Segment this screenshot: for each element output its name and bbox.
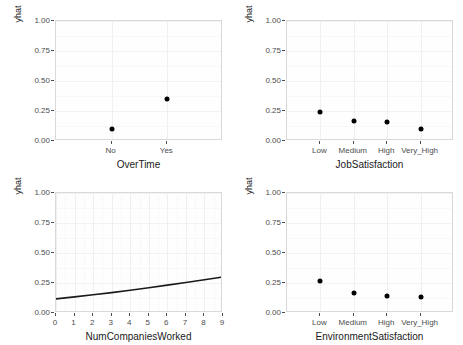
y-tick-label: 0.75 [34, 218, 50, 227]
gridline-horizontal-minor [287, 126, 452, 127]
x-tick-label: Yes [160, 146, 173, 155]
gridline-horizontal-major [56, 111, 221, 112]
x-tick-label: 2 [90, 318, 94, 327]
y-tick-mark [282, 110, 285, 111]
y-tick-label: 0.25 [34, 278, 50, 287]
y-tick-mark [282, 282, 285, 283]
x-axis-title: JobSatisfaction [336, 159, 404, 170]
y-tick-mark [282, 222, 285, 223]
x-tick-mark [203, 313, 204, 316]
x-tick-label: 9 [220, 318, 224, 327]
x-tick-label: 7 [183, 318, 187, 327]
y-tick-mark [51, 50, 54, 51]
y-tick-labels: 0.000.250.500.751.00 [26, 172, 50, 344]
y-tick-mark [51, 192, 54, 193]
y-tick-label: 0.50 [265, 248, 281, 257]
y-tick-mark [51, 282, 54, 283]
x-tick-mark [111, 313, 112, 316]
x-tick-label: 3 [108, 318, 112, 327]
x-tick-mark [111, 141, 112, 144]
x-tick-mark [166, 141, 167, 144]
y-tick-label: 1.00 [265, 188, 281, 197]
x-axis-title: EnvironmentSatisfaction [316, 331, 424, 342]
x-tick-label: Medium [339, 146, 367, 155]
gridline-horizontal-major [287, 193, 452, 194]
x-tick-mark [319, 313, 320, 316]
y-tick-label: 0.00 [34, 308, 50, 317]
y-tick-label: 0.50 [34, 76, 50, 85]
x-tick-mark [55, 313, 56, 316]
x-axis-title: NumCompaniesWorked [86, 331, 192, 342]
trend-line [56, 193, 222, 312]
gridline-horizontal-minor [287, 268, 452, 269]
y-tick-label: 0.25 [265, 278, 281, 287]
gridline-horizontal-minor [287, 238, 452, 239]
y-tick-label: 0.25 [265, 106, 281, 115]
gridline-horizontal-minor [56, 96, 221, 97]
y-tick-labels: 0.000.250.500.751.00 [257, 0, 281, 172]
x-tick-mark [185, 313, 186, 316]
y-tick-label: 1.00 [34, 16, 50, 25]
x-tick-mark [222, 313, 223, 316]
plot-panel [55, 20, 222, 140]
gridline-vertical-major [112, 21, 113, 139]
data-point [385, 294, 390, 299]
x-tick-label: Low [312, 318, 327, 327]
gridline-vertical-major [167, 21, 168, 139]
y-tick-label: 0.75 [265, 218, 281, 227]
x-tick-mark [319, 141, 320, 144]
x-tick-mark [129, 313, 130, 316]
x-tick-mark [166, 313, 167, 316]
y-tick-label: 1.00 [34, 188, 50, 197]
gridline-horizontal-minor [56, 36, 221, 37]
data-point [318, 278, 323, 283]
data-point [165, 97, 170, 102]
gridline-horizontal-major [287, 283, 452, 284]
gridline-vertical-major [320, 21, 321, 139]
plot-panel [55, 192, 222, 312]
panel-jobsatisfaction: yhat0.000.250.500.751.00LowMediumHighVer… [231, 0, 462, 172]
y-tick-mark [282, 50, 285, 51]
x-tick-label: 0 [53, 318, 57, 327]
gridline-horizontal-minor [287, 298, 452, 299]
gridline-horizontal-major [56, 81, 221, 82]
x-axis-title: OverTime [117, 159, 161, 170]
x-tick-label: 8 [201, 318, 205, 327]
plot-panel [286, 192, 453, 312]
x-tick-mark [74, 313, 75, 316]
panel-environmentsatisfaction: yhat0.000.250.500.751.00LowMediumHighVer… [231, 172, 462, 344]
x-tick-label: 6 [164, 318, 168, 327]
y-tick-label: 1.00 [265, 16, 281, 25]
x-tick-label: High [378, 318, 394, 327]
gridline-horizontal-minor [56, 66, 221, 67]
y-tick-labels: 0.000.250.500.751.00 [257, 172, 281, 344]
x-tick-mark [420, 141, 421, 144]
x-tick-label: Very_High [401, 318, 438, 327]
panel-numcompaniesworked: yhat0.000.250.500.751.000123456789NumCom… [0, 172, 231, 344]
data-point [418, 127, 423, 132]
y-tick-mark [51, 222, 54, 223]
x-tick-label: High [378, 146, 394, 155]
gridline-horizontal-minor [287, 96, 452, 97]
y-tick-mark [51, 312, 54, 313]
gridline-vertical-major [421, 21, 422, 139]
x-tick-label: Very_High [401, 146, 438, 155]
y-tick-label: 0.75 [265, 46, 281, 55]
plot-panel [286, 20, 453, 140]
data-point [351, 291, 356, 296]
y-tick-mark [51, 80, 54, 81]
y-tick-labels: 0.000.250.500.751.00 [26, 0, 50, 172]
gridline-horizontal-major [56, 51, 221, 52]
y-tick-mark [282, 20, 285, 21]
gridline-horizontal-major [287, 51, 452, 52]
y-tick-label: 0.75 [34, 46, 50, 55]
gridline-horizontal-minor [287, 66, 452, 67]
gridline-horizontal-major [56, 21, 221, 22]
x-tick-label: No [106, 146, 116, 155]
panel-overtime: yhat0.000.250.500.751.00NoYesOverTime [0, 0, 231, 172]
y-tick-label: 0.50 [265, 76, 281, 85]
gridline-horizontal-major [287, 21, 452, 22]
gridline-horizontal-major [287, 81, 452, 82]
y-tick-mark [51, 20, 54, 21]
data-point [385, 119, 390, 124]
